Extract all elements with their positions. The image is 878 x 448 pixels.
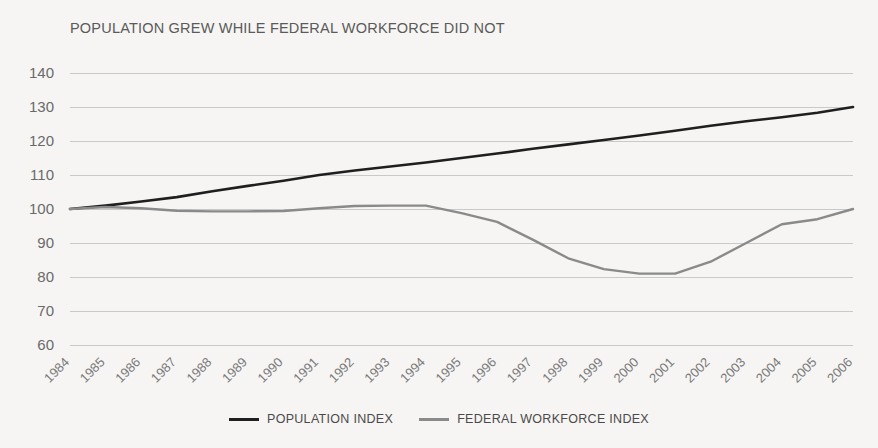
- x-axis-tick-label: 1984: [41, 355, 72, 386]
- x-axis-tick-label: 2002: [682, 355, 713, 386]
- x-axis-tick-label: 1993: [361, 355, 392, 386]
- x-axis-tick-label: 1986: [112, 355, 143, 386]
- x-axis-tick-label: 2006: [824, 355, 855, 386]
- chart-legend: POPULATION INDEX FEDERAL WORKFORCE INDEX: [0, 412, 878, 426]
- x-axis-tick-label: 1990: [255, 355, 286, 386]
- x-axis-tick-label: 2004: [753, 355, 784, 386]
- x-axis-tick-label: 1989: [219, 355, 250, 386]
- x-axis-tick-label: 1996: [468, 355, 499, 386]
- y-axis-tick-label: 140: [29, 64, 54, 81]
- line-chart-plot: 1401301201101009080706019841985198619871…: [0, 0, 878, 448]
- y-axis-tick-label: 60: [37, 336, 54, 353]
- series-line-population: [70, 107, 853, 209]
- legend-label-federal-workforce: FEDERAL WORKFORCE INDEX: [457, 412, 649, 426]
- x-axis-tick-label: 1985: [77, 355, 108, 386]
- legend-swatch-federal-workforce: [419, 418, 449, 421]
- legend-swatch-population: [229, 418, 259, 421]
- y-axis-tick-label: 130: [29, 98, 54, 115]
- y-axis-tick-label: 120: [29, 132, 54, 149]
- x-axis-tick-label: 1995: [433, 355, 464, 386]
- x-axis-tick-label: 1997: [504, 355, 535, 386]
- legend-item-population[interactable]: POPULATION INDEX: [229, 412, 393, 426]
- x-axis-tick-label: 1992: [326, 355, 357, 386]
- x-axis-tick-label: 1998: [539, 355, 570, 386]
- x-axis-tick-label: 2005: [788, 355, 819, 386]
- y-axis-tick-label: 90: [37, 234, 54, 251]
- x-axis-tick-label: 2001: [646, 355, 677, 386]
- x-axis-tick-label: 1991: [290, 355, 321, 386]
- legend-label-population: POPULATION INDEX: [267, 412, 393, 426]
- x-axis-tick-label: 2000: [611, 355, 642, 386]
- x-axis-tick-label: 1994: [397, 355, 428, 386]
- chart-container: POPULATION GREW WHILE FEDERAL WORKFORCE …: [0, 0, 878, 448]
- y-axis-tick-label: 80: [37, 268, 54, 285]
- y-axis-tick-label: 70: [37, 302, 54, 319]
- x-axis-tick-label: 1999: [575, 355, 606, 386]
- x-axis-tick-label: 2003: [717, 355, 748, 386]
- x-axis-tick-label: 1987: [148, 355, 179, 386]
- x-axis-tick-label: 1988: [183, 355, 214, 386]
- legend-item-federal-workforce[interactable]: FEDERAL WORKFORCE INDEX: [419, 412, 649, 426]
- series-line-federal-workforce: [70, 206, 853, 274]
- y-axis-tick-label: 100: [29, 200, 54, 217]
- y-axis-tick-label: 110: [30, 166, 54, 183]
